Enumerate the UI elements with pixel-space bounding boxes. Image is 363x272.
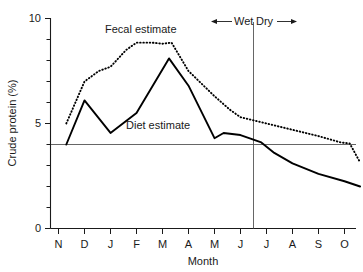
x-axis-title: Month [188, 255, 219, 267]
dry-season-label: Dry [256, 15, 274, 27]
diet-estimate-label: Diet estimate [126, 119, 190, 131]
crude-protein-line-chart: 10 5 0 Crude protein (%) N D J F M A M J… [0, 0, 363, 272]
x-tick-label-nov: N [55, 238, 63, 250]
wet-arrow-head-icon [211, 19, 217, 24]
season-annotation: Wet Dry [211, 15, 297, 27]
x-tick-label-mar: M [158, 238, 167, 250]
series-diet-estimate-line [66, 58, 360, 186]
y-tick-label-5: 5 [35, 117, 41, 129]
y-axis-title: Crude protein (%) [6, 80, 18, 167]
fecal-estimate-label: Fecal estimate [105, 23, 177, 35]
x-tick-label-oct: O [340, 238, 349, 250]
x-tick-label-jul: J [264, 238, 270, 250]
x-tick-label-sep: S [315, 238, 322, 250]
y-tick-label-0: 0 [35, 222, 41, 234]
wet-season-label: Wet [234, 15, 253, 27]
x-tick-label-aug: A [289, 238, 297, 250]
x-tick-label-jun: J [238, 238, 244, 250]
y-axis-ticks [45, 19, 51, 229]
chart-canvas: 10 5 0 Crude protein (%) N D J F M A M J… [0, 0, 363, 272]
x-tick-label-jan: J [108, 238, 114, 250]
x-axis-ticks [59, 229, 345, 235]
x-tick-label-dec: D [81, 238, 89, 250]
x-tick-label-may: M [210, 238, 219, 250]
x-tick-label-apr: A [185, 238, 193, 250]
x-tick-label-feb: F [133, 238, 140, 250]
dry-arrow-head-icon [291, 19, 297, 24]
y-tick-label-10: 10 [29, 12, 41, 24]
